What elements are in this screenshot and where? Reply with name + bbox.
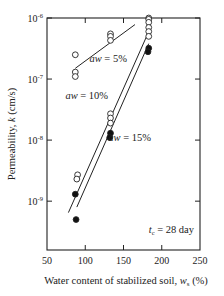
- x-tick-label: 150: [116, 255, 131, 266]
- y-tick-label: 10-8: [28, 134, 43, 146]
- filled-circle-marker: [73, 217, 79, 223]
- y-tick-label: 10-7: [28, 73, 44, 85]
- curing-time-annotation: tc = 28 day: [149, 224, 195, 236]
- y-axis-title: Permeability, k (cm/s): [6, 87, 18, 180]
- series-label-2: aw = 10%: [65, 90, 108, 101]
- open-circle-marker: [72, 52, 78, 58]
- open-circle-marker: [146, 33, 152, 39]
- filled-circle-marker: [72, 191, 78, 197]
- x-tick-label: 100: [78, 255, 93, 266]
- open-circle-marker: [74, 176, 80, 182]
- series-label-1: aw = 5%: [89, 53, 127, 64]
- filled-circle-marker: [145, 49, 151, 55]
- series-label-3: aw = 15%: [108, 132, 151, 143]
- x-tick-label: 200: [154, 255, 169, 266]
- y-tick-label: 10-6: [28, 12, 44, 24]
- curing-time-label: tc = 28 day: [149, 224, 195, 236]
- open-circle-marker: [108, 120, 114, 126]
- x-tick-label: 50: [42, 255, 52, 266]
- x-axis-title: Water content of stabilized soil, ws (%): [44, 275, 208, 288]
- y-tick-label: 10-9: [28, 195, 43, 207]
- permeability-chart: 50100150200250 10-610-710-810-9 aw = 5%a…: [0, 0, 224, 296]
- x-tick-label: 250: [193, 255, 208, 266]
- open-circle-marker: [108, 37, 114, 43]
- open-circle-marker: [72, 74, 78, 80]
